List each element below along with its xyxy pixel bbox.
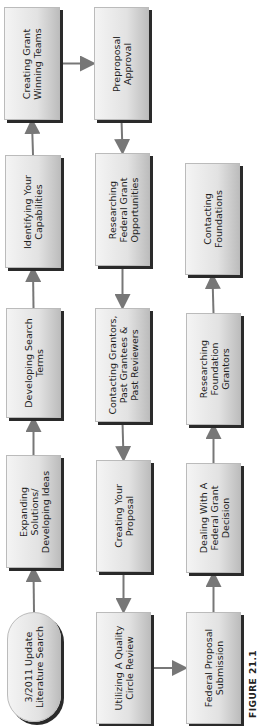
- node-label: Developing SearchTerms: [23, 318, 45, 407]
- node-contacting-foundations: ContactingFoundations: [185, 163, 240, 275]
- node-federal-submission: Federal ProposalSubmission: [186, 612, 241, 724]
- node-developing-search-terms: Developing SearchTerms: [6, 308, 61, 418]
- node-label: ContactingFoundations: [202, 190, 224, 248]
- node-quality-circle-review: Utilizing A QualityCircle Review: [96, 612, 151, 724]
- flowchart-canvas: 3/2011 UpdateLiterature Search Expanding…: [0, 0, 264, 726]
- node-contacting-grantors: Contacting Grantors,Past Grantees &Past …: [95, 308, 150, 422]
- node-researching-federal: ResearchingFederal GrantOpportunities: [95, 153, 150, 266]
- node-creating-grant-teams: Creating GrantWinning Teams: [4, 7, 60, 120]
- node-label: Dealing With AFederal GrantDecision: [197, 483, 230, 553]
- node-label: Creating YourProposal: [113, 484, 135, 548]
- node-creating-proposal: Creating YourProposal: [96, 460, 151, 572]
- node-preproposal-approval: PreproposalApproval: [94, 7, 149, 120]
- node-label: Creating GrantWinning Teams: [21, 28, 43, 100]
- arrow-terms-to-capab: [33, 270, 34, 308]
- node-label: Utilizing A QualityCircle Review: [113, 626, 135, 711]
- node-researching-foundation: ResearchingFoundationGrantors: [186, 313, 241, 425]
- node-literature-search: 3/2011 UpdateLiterature Search: [7, 612, 61, 722]
- node-label: Federal ProposalSubmission: [203, 629, 225, 707]
- node-label: ResearchingFederal GrantOpportunities: [106, 177, 139, 242]
- figure-caption: FIGURE 21.1: [248, 650, 258, 718]
- node-identifying-capabilities: Identifying YourCapabilities: [5, 155, 61, 268]
- arrow-contact-to-create: [123, 422, 124, 458]
- node-label: ResearchingFoundationGrantors: [197, 340, 230, 398]
- arrow-lit-to-expand: [34, 570, 35, 612]
- node-expanding-solutions: ExpandingSolutions/Developing Ideas: [6, 455, 61, 568]
- node-label: ExpandingSolutions/Developing Ideas: [17, 470, 50, 552]
- node-label: Contacting Grantors,Past Grantees &Past …: [106, 315, 139, 414]
- node-label: Identifying YourCapabilities: [22, 175, 44, 249]
- node-dealing-grant-decision: Dealing With AFederal GrantDecision: [186, 463, 241, 573]
- node-label: 3/2011 UpdateLiterature Search: [23, 626, 45, 708]
- arrow-resfound-to-contfound: [213, 277, 214, 313]
- arrow-capab-to-teams: [32, 122, 33, 155]
- node-label: PreproposalApproval: [111, 36, 133, 92]
- arrow-preprop-to-resfed: [122, 120, 123, 151]
